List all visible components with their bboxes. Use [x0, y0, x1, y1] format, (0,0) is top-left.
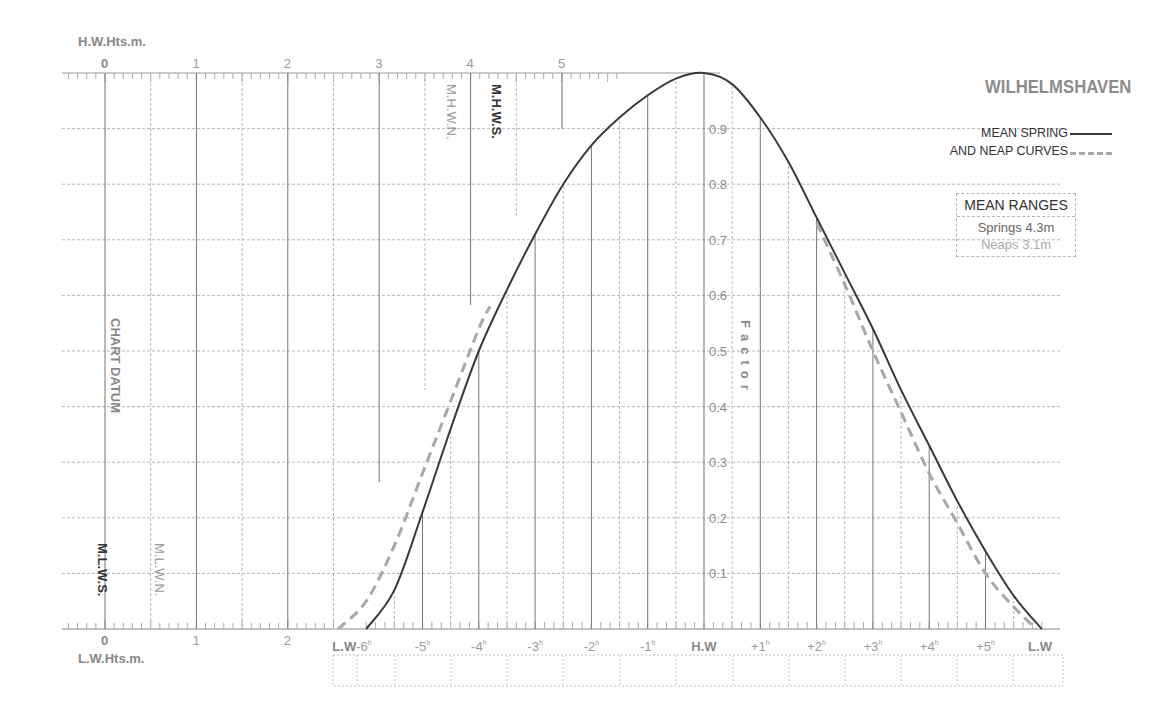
lw-height-tick: 0 — [101, 633, 108, 648]
factor-tick: 0.8 — [709, 177, 727, 192]
tidal-curve-chart: H.W.Hts.m.012345012L.W.Hts.m.0.90.80.70.… — [0, 0, 1163, 723]
legend-line1: MEAN SPRING — [932, 124, 1068, 142]
factor-tick: 0.3 — [709, 455, 727, 470]
legend-neap-swatch — [1070, 152, 1112, 155]
time-tick: -2h — [584, 639, 600, 654]
time-tick: L.W-6h — [332, 639, 371, 654]
time-tick: +2h — [807, 639, 826, 654]
time-tick: -4h — [471, 639, 487, 654]
lw-height-tick: 2 — [284, 633, 291, 648]
legend-line2: AND NEAP CURVES — [932, 142, 1068, 160]
time-tick: +5h — [976, 639, 995, 654]
mhws-label: M.H.W.S. — [489, 84, 504, 139]
factor-tick: 0.4 — [709, 400, 727, 415]
factor-tick: 0.7 — [709, 233, 727, 248]
hw-height-tick: 5 — [558, 56, 565, 71]
hw-height-tick: 3 — [375, 56, 382, 71]
hw-height-tick: 4 — [467, 56, 474, 71]
hw-height-tick: 1 — [192, 56, 199, 71]
factor-tick: 0.2 — [709, 511, 727, 526]
chart-title: WILHELMSHAVEN — [985, 76, 1131, 98]
time-tick: -5h — [415, 639, 431, 654]
neap-curve-rising — [338, 307, 490, 629]
hw-heights-label: H.W.Hts.m. — [78, 34, 146, 49]
mhwn-label: M.H.W.N. — [444, 84, 459, 140]
mlwn-label: M.L.W.N. — [152, 543, 167, 596]
factor-tick: 0.6 — [709, 288, 727, 303]
factor-axis-label: Factor — [738, 320, 753, 396]
springs-range: Springs 4.3m — [957, 217, 1075, 236]
factor-tick: 0.5 — [709, 344, 727, 359]
mean-ranges-header: MEAN RANGES — [957, 194, 1075, 217]
time-tick: +3h — [864, 639, 883, 654]
lw-heights-label: L.W.Hts.m. — [78, 651, 144, 666]
time-tick: -3h — [527, 639, 543, 654]
neaps-range: Neaps 3.1m — [957, 236, 1075, 256]
time-tick: +4h — [920, 639, 939, 654]
legend: MEAN SPRING AND NEAP CURVES — [932, 124, 1068, 160]
mean-ranges-box: MEAN RANGES Springs 4.3m Neaps 3.1m — [956, 193, 1076, 257]
lw-height-tick: 1 — [192, 633, 199, 648]
hw-height-tick: 0 — [101, 56, 108, 71]
factor-tick: 0.9 — [709, 122, 727, 137]
time-tick: -1h — [640, 639, 656, 654]
mlws-label: M.L.W.S. — [95, 543, 110, 596]
time-tick: H.W — [691, 639, 717, 654]
hw-height-tick: 2 — [284, 56, 291, 71]
time-tick: L.W — [1028, 639, 1053, 654]
time-table-box — [333, 655, 1063, 686]
legend-spring-swatch — [1070, 133, 1112, 135]
time-tick: +1h — [751, 639, 770, 654]
chart-datum-label: CHART DATUM — [108, 318, 123, 413]
factor-tick: 0.1 — [709, 566, 727, 581]
